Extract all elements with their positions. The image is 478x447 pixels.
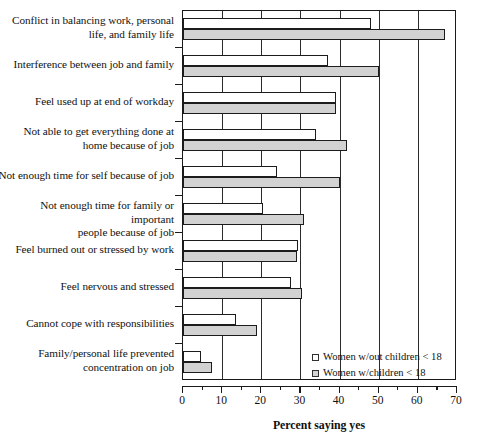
- category-label-line: Not able to get everything done at: [0, 125, 174, 139]
- category-label: Interference between job and family: [0, 58, 174, 72]
- category-label-line: people because of job: [0, 226, 174, 240]
- x-axis-tick-minor: [358, 386, 359, 390]
- legend-swatch-icon-nokids: [312, 354, 319, 361]
- category-label-line: life, and family life: [0, 28, 174, 42]
- category-label: Feel used up at end of workday: [0, 95, 174, 109]
- legend-swatch-icon-kids: [312, 370, 319, 377]
- legend-item-women-with-children: Women w/children < 18: [312, 366, 442, 380]
- x-axis-tick-minor: [241, 386, 242, 390]
- x-axis-tick-major: [182, 386, 183, 393]
- legend-item-women-without-children: Women w/out children < 18: [312, 350, 442, 364]
- bar-group: [183, 233, 455, 270]
- x-axis-tick-minor: [397, 386, 398, 390]
- x-axis-tick-minor: [202, 386, 203, 390]
- x-axis-tick-label: 50: [372, 394, 384, 406]
- x-axis-tick-major: [378, 386, 379, 393]
- bar-kids: [183, 325, 257, 336]
- category-label: Feel nervous and stressed: [0, 280, 174, 294]
- plot-inner: [183, 11, 455, 379]
- bar-group: [183, 159, 455, 196]
- legend: Women w/out children < 18 Women w/childr…: [312, 350, 442, 382]
- bar-nokids: [183, 18, 371, 29]
- bar-kids: [183, 251, 297, 262]
- x-axis-tick-major: [417, 386, 418, 393]
- category-label-line: Feel burned out or stressed by work: [0, 243, 174, 257]
- x-axis-tick-label: 0: [179, 394, 185, 406]
- bar-nokids: [183, 55, 328, 66]
- bar-kids: [183, 288, 302, 299]
- category-label: Not enough time for self because of job: [0, 169, 174, 183]
- bar-kids: [183, 29, 445, 40]
- legend-label-kids: Women w/children < 18: [323, 366, 426, 380]
- x-axis-tick-label: 60: [411, 394, 423, 406]
- x-axis-tick-major: [339, 386, 340, 393]
- x-axis-tick-minor: [319, 386, 320, 390]
- bar-group: [183, 85, 455, 122]
- bar-kids: [183, 66, 379, 77]
- category-label-line: Interference between job and family: [0, 58, 174, 72]
- x-axis-tick-minor: [280, 386, 281, 390]
- y-axis-tick: [175, 47, 182, 48]
- x-axis-tick-major: [299, 386, 300, 393]
- category-label: Family/personal life preventedconcentrat…: [0, 347, 174, 374]
- legend-label-nokids: Women w/out children < 18: [323, 350, 442, 364]
- y-axis-tick: [175, 158, 182, 159]
- category-label-line: Conflict in balancing work, personal: [0, 14, 174, 28]
- category-label-line: Feel nervous and stressed: [0, 280, 174, 294]
- bar-group: [183, 307, 455, 344]
- bar-kids: [183, 103, 336, 114]
- x-axis-tick-label: 20: [255, 394, 267, 406]
- y-axis-tick: [175, 84, 182, 85]
- x-axis-tick-label: 10: [215, 394, 227, 406]
- bar-kids: [183, 362, 212, 373]
- x-axis-tick-major: [221, 386, 222, 393]
- bar-nokids: [183, 203, 263, 214]
- category-label: Not enough time for family or importantp…: [0, 199, 174, 240]
- x-axis-tick-label: 40: [333, 394, 345, 406]
- bar-nokids: [183, 351, 201, 362]
- bar-nokids: [183, 129, 316, 140]
- category-label-line: home because of job: [0, 139, 174, 153]
- bar-kids: [183, 140, 347, 151]
- category-label-line: Family/personal life prevented: [0, 347, 174, 361]
- bar-group: [183, 122, 455, 159]
- plot-area: [182, 10, 456, 380]
- y-axis-tick: [175, 195, 182, 196]
- category-label: Cannot cope with responsibilities: [0, 317, 174, 331]
- x-axis-tick-major: [456, 386, 457, 393]
- bar-kids: [183, 177, 340, 188]
- bar-group: [183, 196, 455, 233]
- x-axis-title: Percent saying yes: [182, 418, 456, 433]
- category-label-line: concentration on job: [0, 361, 174, 375]
- category-labels: Conflict in balancing work, personallife…: [0, 10, 178, 380]
- x-axis-tick-label: 70: [450, 394, 462, 406]
- y-axis-tick: [175, 269, 182, 270]
- x-axis-tick-major: [260, 386, 261, 393]
- bar-chart: Conflict in balancing work, personallife…: [0, 0, 478, 447]
- y-axis-tick: [175, 306, 182, 307]
- x-axis-tick-label: 30: [294, 394, 306, 406]
- bar-kids: [183, 214, 304, 225]
- category-label-line: Cannot cope with responsibilities: [0, 317, 174, 331]
- category-label-line: Not enough time for family or important: [0, 199, 174, 226]
- bar-nokids: [183, 240, 298, 251]
- category-label-line: Not enough time for self because of job: [0, 169, 174, 183]
- bar-nokids: [183, 314, 236, 325]
- y-axis-tick: [175, 343, 182, 344]
- category-label: Conflict in balancing work, personallife…: [0, 14, 174, 41]
- bar-group: [183, 270, 455, 307]
- bar-nokids: [183, 277, 291, 288]
- x-axis-tick-minor: [436, 386, 437, 390]
- y-axis-tick: [175, 121, 182, 122]
- bar-nokids: [183, 92, 336, 103]
- category-label: Feel burned out or stressed by work: [0, 243, 174, 257]
- category-label-line: Feel used up at end of workday: [0, 95, 174, 109]
- bar-group: [183, 48, 455, 85]
- y-axis-tick: [175, 232, 182, 233]
- category-label: Not able to get everything done athome b…: [0, 125, 174, 152]
- bar-nokids: [183, 166, 277, 177]
- bar-group: [183, 11, 455, 48]
